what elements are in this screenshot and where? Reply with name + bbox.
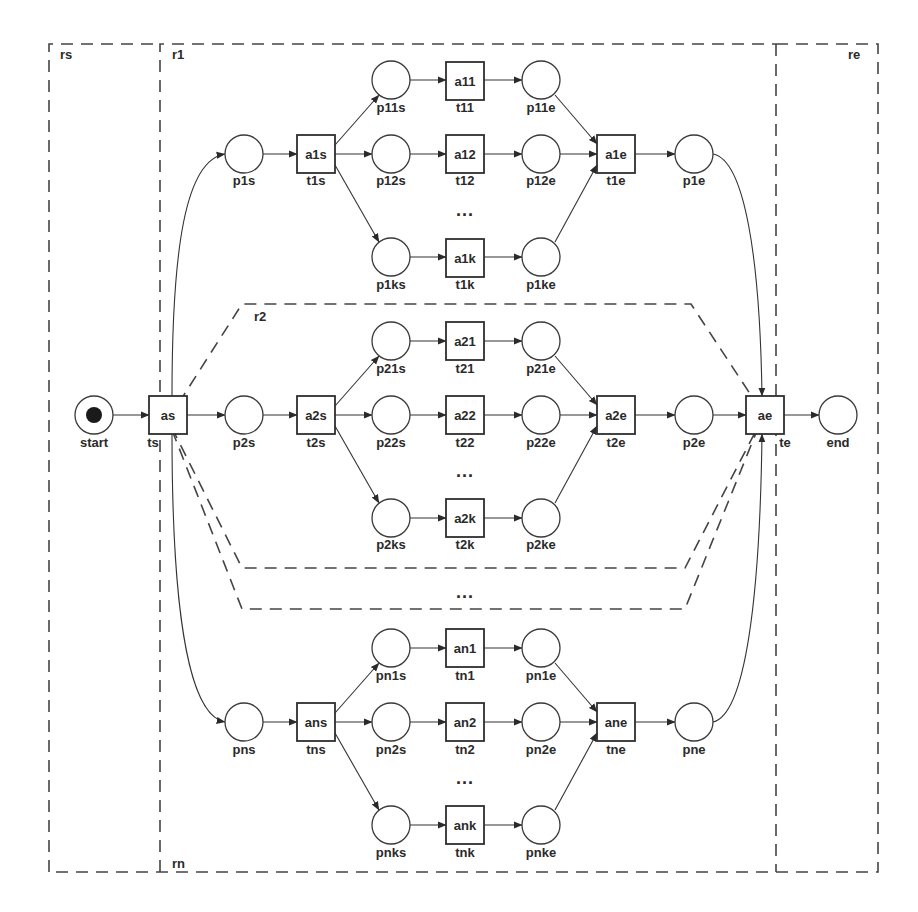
transition-name: an2 <box>454 715 476 730</box>
transition-name: a2k <box>454 511 476 526</box>
transition-name: a2s <box>305 408 327 423</box>
start-place[interactable]: start <box>75 396 113 450</box>
place-pne[interactable]: pne <box>675 703 713 757</box>
transition-name: an1 <box>454 641 476 656</box>
place-pns[interactable]: pns <box>225 703 263 757</box>
branch-n: pns ans tns pn1s an1 tn1 pn1e pn2s an2 t… <box>225 629 713 860</box>
place-p2s[interactable]: p2s <box>225 396 263 450</box>
transition-t2s[interactable]: a2s t2s <box>297 396 335 450</box>
branch-2: p2s a2s t2s p21s a21 t21 p21e p22s a22 t… <box>225 322 713 552</box>
transition-t12[interactable]: a12 t12 <box>446 135 484 188</box>
place-pn2e[interactable]: pn2e <box>522 703 560 757</box>
place-p21e[interactable]: p21e <box>522 322 560 376</box>
place-p2ks[interactable]: p2ks <box>372 499 410 552</box>
transition-tn1[interactable]: an1 tn1 <box>446 629 484 683</box>
transition-label: t2s <box>307 435 326 450</box>
place-label: p2e <box>683 435 705 450</box>
place-p2ke[interactable]: p2ke <box>522 499 560 552</box>
place-label: p2ke <box>526 537 556 552</box>
place-pn2s[interactable]: pn2s <box>372 703 410 757</box>
transition-name: a21 <box>454 334 476 349</box>
transition-t1s[interactable]: a1s t1s <box>297 135 335 188</box>
transition-tne[interactable]: ane tne <box>597 703 635 757</box>
transition-tn2[interactable]: an2 tn2 <box>446 703 484 757</box>
place-label: pnke <box>526 845 556 860</box>
transition-label: te <box>779 435 791 450</box>
place-p11e[interactable]: p11e <box>522 61 560 115</box>
place-p11s[interactable]: p11s <box>372 61 410 115</box>
transition-label: t2e <box>607 435 626 450</box>
transition-name: ane <box>605 715 627 730</box>
transition-label: tnk <box>455 845 475 860</box>
region-label-r1: r1 <box>172 47 184 62</box>
place-label: pne <box>682 742 705 757</box>
transition-t2k[interactable]: a2k t2k <box>446 499 484 552</box>
transition-t1e[interactable]: a1e t1e <box>597 135 635 188</box>
transition-t11[interactable]: a11 t11 <box>446 62 484 115</box>
place-label: end <box>826 435 849 450</box>
transition-name: ae <box>758 408 772 423</box>
place-pn1e[interactable]: pn1e <box>522 629 560 683</box>
place-label: p1ke <box>526 277 556 292</box>
region-rs <box>49 44 160 872</box>
place-p21s[interactable]: p21s <box>372 322 410 376</box>
place-label: p11s <box>377 100 406 115</box>
branch-1: p1s a1s t1s p11s a11 t11 p11e p12s a12 <box>225 61 713 292</box>
petri-net-diagram: rs r1 re rn r2 <box>0 0 918 912</box>
place-p22s[interactable]: p22s <box>372 396 410 450</box>
transition-label: tn2 <box>455 742 475 757</box>
transition-tnk[interactable]: ank tnk <box>446 806 484 860</box>
place-p1ke[interactable]: p1ke <box>522 238 560 292</box>
transition-label: t1e <box>607 173 626 188</box>
transition-label: t1s <box>307 173 326 188</box>
transition-tns[interactable]: ans tns <box>297 703 335 757</box>
transition-t2e[interactable]: a2e t2e <box>597 396 635 450</box>
transition-name: a11 <box>455 74 476 89</box>
transition-t1k[interactable]: a1k t1k <box>446 239 484 292</box>
transition-name: as <box>161 408 175 423</box>
transition-label: t12 <box>456 173 475 188</box>
ellipsis: ... <box>456 200 474 220</box>
place-pn1s[interactable]: pn1s <box>372 629 410 683</box>
start-transition[interactable]: as ts <box>147 396 187 450</box>
transition-name: a22 <box>454 408 476 423</box>
token-icon <box>86 407 102 423</box>
place-p12e[interactable]: p12e <box>522 135 560 188</box>
place-label: pnks <box>376 845 406 860</box>
place-p2e[interactable]: p2e <box>675 396 713 450</box>
region-label-rn: rn <box>172 856 185 871</box>
transition-label: t2k <box>456 537 476 552</box>
ellipsis: ... <box>456 461 474 481</box>
transition-name: a12 <box>454 147 476 162</box>
transition-name: a1e <box>605 147 627 162</box>
place-label: p2ks <box>376 537 406 552</box>
transition-label: tns <box>306 742 326 757</box>
place-p1s[interactable]: p1s <box>225 135 263 188</box>
place-label: start <box>80 435 109 450</box>
transition-label: t1k <box>456 277 476 292</box>
place-label: p1ks <box>376 277 406 292</box>
end-transition[interactable]: ae te <box>746 396 791 450</box>
place-label: p2s <box>233 435 255 450</box>
place-label: pn1s <box>376 668 406 683</box>
end-place[interactable]: end <box>819 396 857 450</box>
transition-label: t21 <box>456 361 475 376</box>
place-pnke[interactable]: pnke <box>522 806 560 860</box>
ellipsis: ... <box>456 768 474 788</box>
place-p22e[interactable]: p22e <box>522 396 560 450</box>
transition-t22[interactable]: a22 t22 <box>446 396 484 450</box>
place-label: p22s <box>376 435 406 450</box>
place-label: p12s <box>376 173 406 188</box>
place-p12s[interactable]: p12s <box>372 135 410 188</box>
place-label: p11e <box>527 100 556 115</box>
place-label: p21s <box>376 361 406 376</box>
transition-label: t11 <box>456 100 474 115</box>
transition-label: tne <box>606 742 626 757</box>
transition-t21[interactable]: a21 t21 <box>446 322 484 376</box>
place-p1e[interactable]: p1e <box>675 135 713 188</box>
place-label: p12e <box>526 173 556 188</box>
region-label-re: re <box>848 47 860 62</box>
place-pnks[interactable]: pnks <box>372 806 410 860</box>
place-p1ks[interactable]: p1ks <box>372 238 410 292</box>
transition-name: a1k <box>454 251 476 266</box>
